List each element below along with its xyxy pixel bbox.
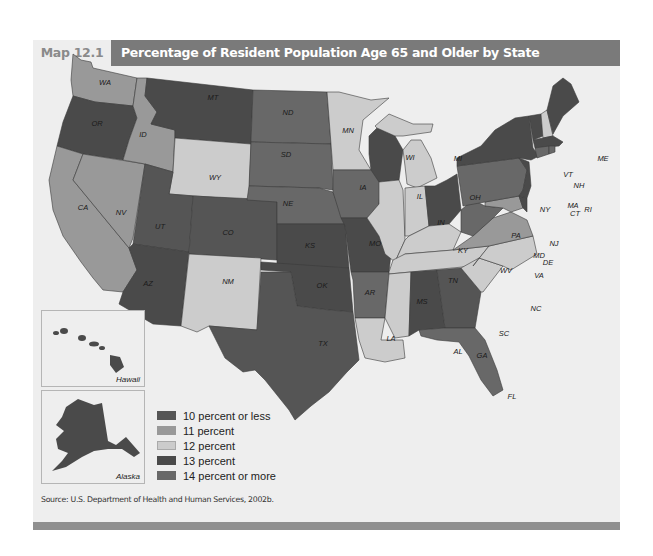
legend-swatch — [157, 426, 176, 435]
label-il: IL — [417, 192, 423, 201]
legend-item-14: 14 percent or more — [157, 468, 276, 483]
legend-swatch — [157, 471, 176, 480]
label-ca: CA — [78, 203, 88, 212]
bottom-rule — [33, 522, 620, 530]
alaska-inset: Alaska — [41, 390, 145, 484]
label-ks: KS — [305, 241, 315, 250]
label-nc: NC — [531, 304, 542, 313]
state-nd — [251, 90, 331, 144]
label-nh: NH — [574, 181, 585, 190]
label-nv: NV — [116, 208, 127, 217]
label-mo: MO — [369, 239, 381, 248]
alaska-label: Alaska — [116, 472, 140, 481]
legend-item-10: 10 percent or less — [157, 408, 276, 423]
label-nd: ND — [283, 108, 294, 117]
state-ny — [457, 116, 539, 166]
state-ct — [535, 146, 549, 158]
label-wv: WV — [500, 266, 513, 275]
state-mi — [403, 140, 437, 188]
legend: 10 percent or less 11 percent 12 percent… — [157, 408, 276, 483]
legend-label: 12 percent — [183, 440, 235, 452]
label-nm: NM — [222, 277, 234, 286]
label-ct: CT — [570, 209, 581, 218]
legend-label: 14 percent or more — [183, 470, 276, 482]
label-in: IN — [437, 218, 445, 227]
legend-label: 13 percent — [183, 455, 235, 467]
source-note: Source: U.S. Department of Health and Hu… — [41, 495, 274, 504]
label-oh: OH — [469, 193, 481, 202]
label-az: AZ — [142, 279, 153, 288]
label-me: ME — [597, 154, 609, 163]
hawaii-label: Hawaii — [116, 375, 140, 384]
label-ia: IA — [359, 183, 366, 192]
state-fl — [419, 328, 503, 396]
label-ok: OK — [317, 281, 329, 290]
state-ms — [385, 272, 411, 338]
label-fl: FL — [508, 392, 517, 401]
label-mt: MT — [208, 93, 220, 102]
alaska-map — [42, 391, 144, 483]
label-mn: MN — [342, 126, 354, 135]
label-ne: NE — [283, 199, 294, 208]
legend-label: 11 percent — [183, 425, 234, 437]
state-ri — [549, 146, 555, 154]
label-co: CO — [222, 228, 233, 237]
label-ri: RI — [584, 205, 592, 214]
label-ms: MS — [416, 297, 427, 306]
label-vt: VT — [563, 170, 574, 179]
label-wy: WY — [209, 173, 222, 182]
label-al: AL — [452, 347, 462, 356]
label-tx: TX — [318, 339, 329, 348]
legend-swatch — [157, 411, 176, 420]
label-nj: NJ — [549, 239, 558, 248]
label-ma: MA — [567, 201, 578, 210]
label-pa: PA — [511, 231, 520, 240]
label-mi: MI — [454, 154, 462, 163]
label-tn: TN — [448, 276, 459, 285]
legend-swatch — [157, 441, 176, 450]
label-ky: KY — [458, 246, 469, 255]
label-ut: UT — [155, 222, 166, 231]
label-id: ID — [139, 130, 147, 139]
legend-item-11: 11 percent — [157, 423, 276, 438]
state-nm — [181, 254, 261, 332]
hawaii-inset: Hawaii — [41, 310, 145, 387]
legend-label: 10 percent or less — [183, 410, 270, 422]
label-ny: NY — [540, 205, 551, 214]
legend-item-12: 12 percent — [157, 438, 276, 453]
state-me — [547, 78, 579, 134]
state-wy — [169, 138, 251, 200]
label-va: VA — [534, 271, 544, 280]
label-ar: AR — [364, 288, 376, 297]
label-sd: SD — [281, 150, 292, 159]
map-panel: Map 12.1 Percentage of Resident Populati… — [33, 40, 620, 530]
label-sc: SC — [499, 329, 510, 338]
label-wa: WA — [99, 78, 111, 87]
label-ga: GA — [477, 351, 488, 360]
label-de: DE — [543, 258, 554, 267]
label-wi: WI — [405, 153, 414, 162]
label-la: LA — [386, 334, 395, 343]
label-or: OR — [91, 119, 103, 128]
legend-swatch — [157, 456, 176, 465]
legend-item-13: 13 percent — [157, 453, 276, 468]
